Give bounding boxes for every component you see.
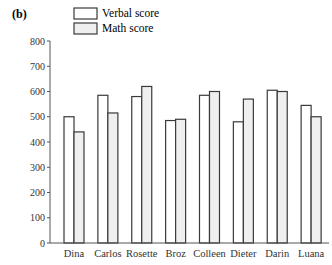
bar-verbal-broz [166,121,176,243]
bar-group-dina [64,117,84,243]
panel-label: (b) [12,7,27,21]
x-tick-label: Dina [64,248,85,259]
y-tick-label: 400 [30,137,45,148]
bar-verbal-carlos [98,95,108,243]
legend-swatch-math [74,23,97,34]
bar-math-broz [176,119,186,243]
bar-math-carlos [108,113,118,243]
bar-verbal-dina [64,117,74,243]
bar-group-colleen [200,92,220,244]
x-tick-label: Rosette [126,248,158,259]
bar-group-rosette [132,86,152,243]
bar-group-broz [166,119,186,243]
y-tick-label: 700 [30,61,45,72]
x-tick-label: Colleen [193,248,226,259]
legend-item-math: Math score [74,22,153,34]
bar-verbal-luana [301,105,311,243]
bar-group-darin [267,90,287,243]
bar-verbal-rosette [132,97,142,243]
legend-label-verbal: Verbal score [102,7,159,19]
legend-item-verbal: Verbal score [74,7,159,19]
x-tick-label: Darin [265,248,290,259]
y-tick-label: 800 [30,36,45,47]
legend: Verbal score Math score [74,7,159,34]
bar-math-luana [311,117,321,243]
legend-label-math: Math score [102,22,153,34]
bar-math-dina [74,132,84,243]
x-tick-label: Dieter [230,248,257,259]
bar-group-dieter [233,99,253,243]
x-axis: DinaCarlosRosetteBrozColleenDieterDarinL… [50,243,329,259]
y-axis: 0100200300400500600700800 [30,36,50,249]
bar-math-rosette [142,86,152,243]
grouped-bar-chart: (b) Verbal score Math score 010020030040… [0,0,332,265]
bar-group-carlos [98,95,118,243]
bar-verbal-dieter [233,122,243,243]
y-tick-label: 500 [30,111,45,122]
y-tick-label: 300 [30,162,45,173]
bar-math-dieter [243,99,253,243]
bar-math-darin [277,92,287,244]
bar-verbal-colleen [200,95,210,243]
bars [64,86,321,243]
bar-math-colleen [210,92,220,244]
x-tick-label: Broz [165,248,186,259]
x-tick-label: Luana [298,248,325,259]
x-tick-label: Carlos [94,248,121,259]
y-tick-label: 600 [30,86,45,97]
legend-swatch-verbal [74,8,97,19]
y-tick-label: 100 [30,212,45,223]
y-tick-label: 0 [40,238,45,249]
y-tick-label: 200 [30,187,45,198]
chart-canvas: (b) Verbal score Math score 010020030040… [0,0,332,265]
bar-group-luana [301,105,321,243]
bar-verbal-darin [267,90,277,243]
